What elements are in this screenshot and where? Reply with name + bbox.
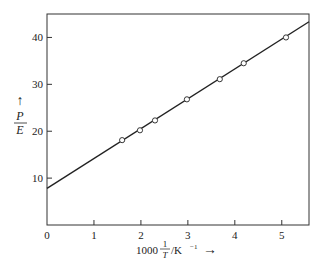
y-axis-label: ↑ P E [14, 93, 27, 137]
x-tick-label: 2 [138, 229, 144, 241]
x-tick-label: 0 [44, 229, 50, 241]
x-axis-label-suffix: /K [171, 244, 182, 256]
y-axis-arrow-icon: ↑ [17, 93, 24, 108]
plot-border [47, 14, 309, 225]
x-tick-label: 4 [232, 229, 238, 241]
data-point [152, 118, 157, 123]
data-point [241, 61, 246, 66]
x-axis-ticks: 012345 [44, 220, 285, 241]
y-tick-label: 20 [32, 125, 44, 137]
data-point [283, 35, 288, 40]
x-axis-label-frac-num: 1 [163, 239, 168, 249]
x-axis-label-frac-den: T [162, 250, 168, 260]
x-axis-arrow-icon: → [203, 242, 217, 257]
y-tick-label: 30 [32, 78, 44, 90]
x-axis-label: 1000 1 T /K −1 → [136, 239, 217, 260]
x-tick-label: 3 [185, 229, 191, 241]
y-axis-label-denominator: E [15, 123, 24, 137]
plot-frame [47, 14, 309, 225]
y-tick-label: 10 [32, 172, 44, 184]
fit-line-group [47, 22, 309, 189]
x-tick-label: 5 [279, 229, 285, 241]
data-point [184, 97, 189, 102]
x-axis-label-prefix: 1000 [136, 244, 159, 256]
y-axis-label-numerator: P [15, 109, 24, 123]
fit-line [47, 22, 309, 189]
data-point [217, 77, 222, 82]
data-point [137, 128, 142, 133]
data-point [120, 138, 125, 143]
y-tick-label: 40 [32, 31, 44, 43]
chart: 012345 10203040 ↑ P E 1000 1 T /K −1 → [0, 0, 324, 271]
x-axis-label-sup: −1 [190, 243, 198, 251]
x-tick-label: 1 [91, 229, 97, 241]
y-axis-ticks: 10203040 [32, 31, 52, 184]
